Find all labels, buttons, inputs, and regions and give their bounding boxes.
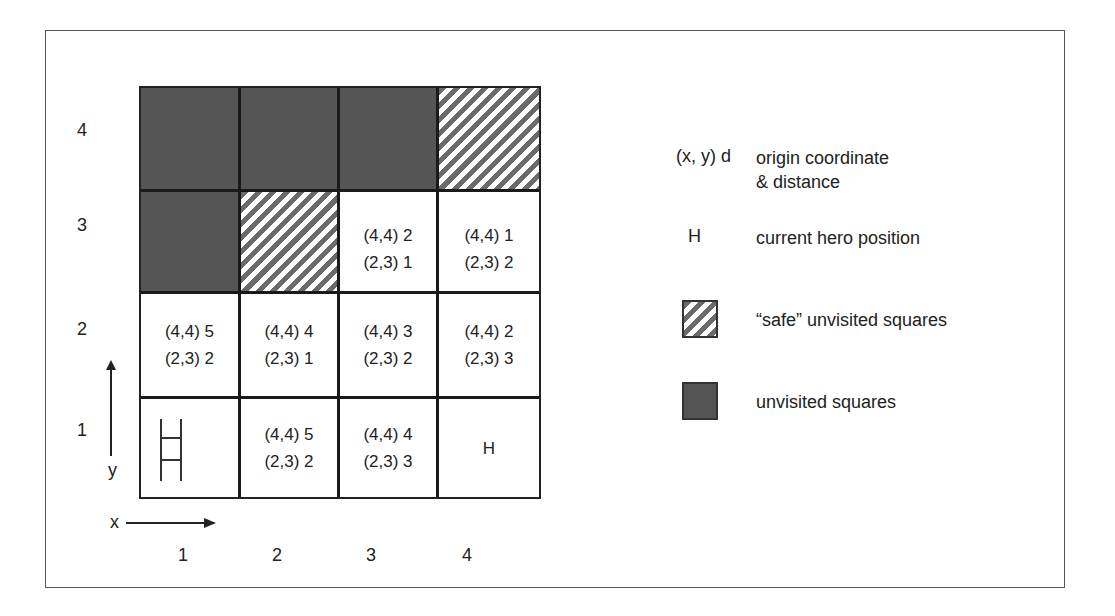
y-axis-label: y: [108, 460, 117, 481]
cell-4-2: (4,4) 2 (2,3) 3: [439, 294, 539, 399]
cell-1-3: [141, 192, 241, 294]
legend-desc: unvisited squares: [756, 390, 1016, 414]
cell-line: (2,3) 2: [464, 249, 513, 276]
legend-desc: origin coordinate & distance: [756, 146, 1016, 194]
cell-line: (2,3) 3: [363, 448, 412, 475]
cell-4-4: [439, 88, 539, 192]
dungeon-grid: (4,4) 2 (2,3) 1 (4,4) 1 (2,3) 2 (4,4) 5 …: [139, 86, 541, 499]
cell-2-2: (4,4) 4 (2,3) 1: [241, 294, 340, 399]
x-tick-4: 4: [462, 545, 472, 566]
y-tick-2: 2: [77, 319, 87, 340]
cell-4-1: H: [439, 399, 539, 497]
cell-line: (4,4) 4: [264, 318, 313, 345]
y-tick-1: 1: [77, 420, 87, 441]
cell-line: (2,3) 1: [363, 249, 412, 276]
cell-line: (2,3) 2: [264, 448, 313, 475]
cell-line: (4,4) 3: [363, 318, 412, 345]
cell-line: (4,4) 5: [165, 318, 214, 345]
cell-line: (4,4) 4: [363, 421, 412, 448]
x-axis-arrow-icon: [126, 516, 216, 530]
legend-desc-line: origin coordinate: [756, 146, 1016, 170]
cell-3-1: (4,4) 4 (2,3) 3: [340, 399, 439, 497]
cell-1-4: [141, 88, 241, 192]
cell-line: (4,4) 5: [264, 421, 313, 448]
cell-3-2: (4,4) 3 (2,3) 2: [340, 294, 439, 399]
cell-2-3: [241, 192, 340, 294]
cell-1-2: (4,4) 5 (2,3) 2: [141, 294, 241, 399]
cell-4-3: (4,4) 1 (2,3) 2: [439, 192, 539, 294]
ladder-icon: [159, 419, 183, 481]
cell-3-4: [340, 88, 439, 192]
cell-line: (2,3) 3: [464, 345, 513, 372]
x-axis-label: x: [110, 512, 119, 533]
legend-key: H: [688, 226, 701, 247]
y-axis-arrow-icon: [104, 360, 118, 456]
cell-2-4: [241, 88, 340, 192]
legend-desc-line: & distance: [756, 170, 1016, 194]
y-tick-4: 4: [77, 120, 87, 141]
cell-line: (4,4) 2: [464, 318, 513, 345]
cell-line: (2,3) 1: [264, 345, 313, 372]
cell-2-1: (4,4) 5 (2,3) 2: [241, 399, 340, 497]
x-tick-3: 3: [366, 545, 376, 566]
cell-line: (2,3) 2: [363, 345, 412, 372]
cell-line: (2,3) 2: [165, 345, 214, 372]
unvisited-swatch-icon: [682, 382, 718, 420]
safe-swatch-icon: [682, 300, 718, 338]
cell-1-1: [141, 399, 241, 497]
cell-line: (4,4) 1: [464, 222, 513, 249]
legend-desc: current hero position: [756, 226, 1016, 250]
hero-marker: H: [483, 435, 495, 462]
legend-desc: “safe” unvisited squares: [756, 308, 1016, 332]
legend-key: (x, y) d: [676, 146, 731, 167]
x-tick-2: 2: [272, 545, 282, 566]
x-tick-1: 1: [178, 545, 188, 566]
cell-3-3: (4,4) 2 (2,3) 1: [340, 192, 439, 294]
cell-line: (4,4) 2: [363, 222, 412, 249]
y-tick-3: 3: [77, 215, 87, 236]
